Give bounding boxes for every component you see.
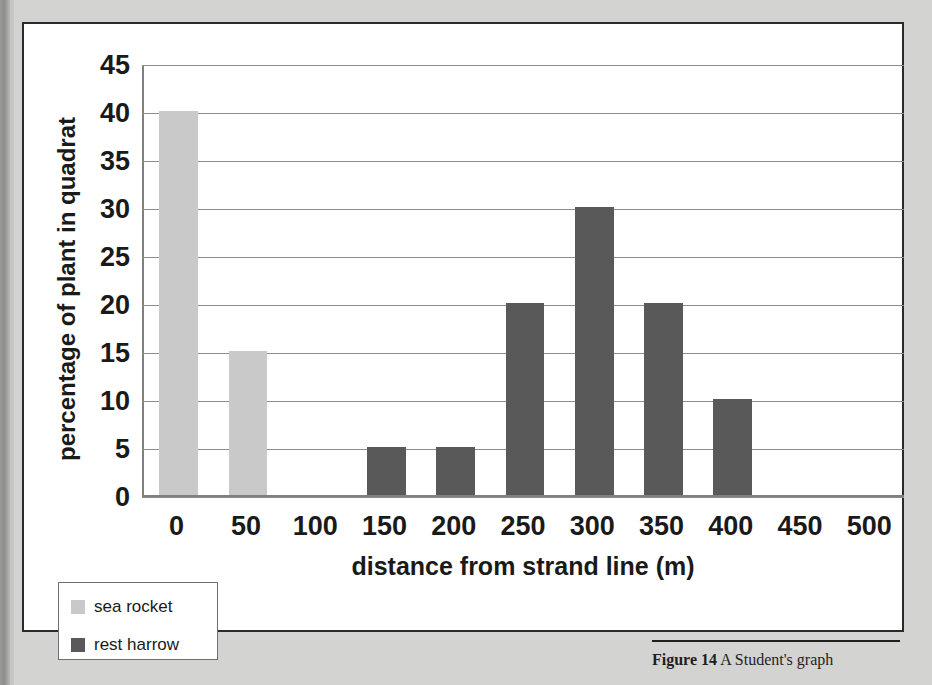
y-tick-label: 10 bbox=[100, 388, 130, 415]
y-axis-title-text: percentage of plant in quadrat bbox=[53, 117, 81, 461]
x-tick-label: 500 bbox=[847, 513, 892, 540]
y-tick-label: 5 bbox=[115, 436, 130, 463]
legend-swatch bbox=[71, 638, 85, 652]
legend-item: rest harrow bbox=[71, 630, 217, 660]
x-tick-label: 100 bbox=[293, 513, 338, 540]
caption-divider bbox=[652, 640, 900, 642]
page-inner-margin bbox=[10, 0, 14, 685]
caption-description: A Student's graph bbox=[717, 651, 833, 668]
y-tick-label: 15 bbox=[100, 340, 130, 367]
x-tick-label: 0 bbox=[169, 513, 184, 540]
bar bbox=[506, 303, 545, 495]
x-tick-label: 50 bbox=[231, 513, 261, 540]
chart-legend: sea rocketrest harrow bbox=[58, 582, 218, 660]
x-tick-label: 200 bbox=[431, 513, 476, 540]
bar bbox=[644, 303, 683, 495]
bar bbox=[436, 447, 475, 495]
legend-label: sea rocket bbox=[94, 597, 172, 617]
y-tick-label: 35 bbox=[100, 148, 130, 175]
x-tick-label: 400 bbox=[708, 513, 753, 540]
legend-swatch bbox=[71, 600, 85, 614]
x-tick-label: 350 bbox=[639, 513, 684, 540]
x-tick-label: 450 bbox=[778, 513, 823, 540]
y-tick-label: 0 bbox=[115, 484, 130, 511]
plot-area: 051015202530354045 050100150200250300350… bbox=[142, 65, 904, 497]
bar bbox=[713, 399, 752, 495]
gridline bbox=[142, 497, 904, 498]
y-tick-label: 30 bbox=[100, 196, 130, 223]
legend-label: rest harrow bbox=[94, 635, 179, 655]
figure-caption: Figure 14 A Student's graph bbox=[652, 640, 910, 669]
y-axis-title: percentage of plant in quadrat bbox=[50, 74, 84, 504]
x-tick-label: 150 bbox=[362, 513, 407, 540]
x-tick-label: 250 bbox=[500, 513, 545, 540]
book-spine-edge bbox=[0, 0, 10, 685]
legend-item: sea rocket bbox=[71, 592, 217, 622]
y-tick-label: 20 bbox=[100, 292, 130, 319]
bars-group bbox=[144, 65, 904, 495]
y-tick-label: 45 bbox=[100, 52, 130, 79]
bar bbox=[575, 207, 614, 495]
x-axis-title: distance from strand line (m) bbox=[142, 552, 904, 581]
y-tick-label: 40 bbox=[100, 100, 130, 127]
caption-figure-number: Figure 14 bbox=[652, 651, 717, 668]
caption-text: Figure 14 A Student's graph bbox=[652, 651, 910, 669]
x-tick-label: 300 bbox=[570, 513, 615, 540]
clipped-chart-title bbox=[0, 0, 932, 2]
chart-panel: percentage of plant in quadrat 051015202… bbox=[22, 22, 904, 632]
bar bbox=[367, 447, 406, 495]
y-tick-label: 25 bbox=[100, 244, 130, 271]
bar bbox=[229, 351, 268, 495]
bar bbox=[159, 111, 198, 495]
